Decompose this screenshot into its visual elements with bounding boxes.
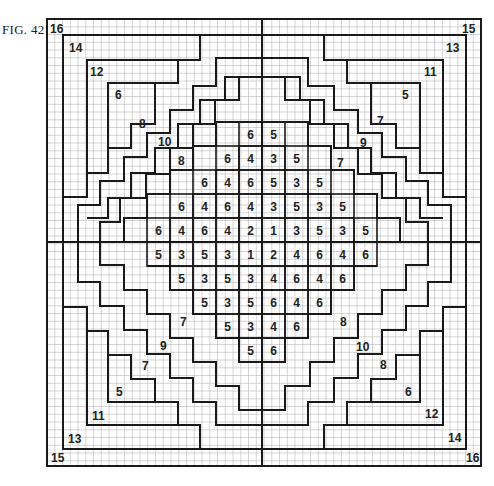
block-number: 1 — [270, 224, 277, 238]
block-number: 6 — [201, 224, 208, 238]
block-number: 4 — [224, 224, 231, 238]
region-label: 6 — [115, 88, 122, 102]
block-number: 1 — [247, 248, 254, 262]
region-label: 12 — [425, 407, 439, 421]
block-number: 6 — [155, 224, 162, 238]
region-label: 10 — [158, 135, 172, 149]
block-number: 3 — [316, 200, 323, 214]
region-label: 14 — [448, 431, 462, 445]
block-number: 5 — [270, 128, 277, 142]
block-number: 3 — [247, 320, 254, 334]
block-number: 3 — [293, 224, 300, 238]
block-number: 5 — [224, 320, 231, 334]
block-number: 3 — [224, 248, 231, 262]
block-number: 5 — [293, 200, 300, 214]
region-label: 7 — [377, 114, 384, 128]
block-number: 3 — [270, 200, 277, 214]
block-number: 5 — [339, 200, 346, 214]
region-label: 11 — [424, 65, 437, 79]
region-label: 8 — [178, 154, 185, 168]
region-label: 14 — [69, 41, 83, 55]
region-label: 9 — [360, 136, 367, 150]
block-number: 5 — [270, 176, 277, 190]
block-number: 4 — [339, 248, 346, 262]
block-number: 6 — [293, 320, 300, 334]
block-number: 3 — [270, 152, 277, 166]
block-number: 6 — [224, 200, 231, 214]
block-number: 3 — [293, 176, 300, 190]
block-number: 4 — [270, 272, 277, 286]
region-label: 13 — [446, 41, 460, 55]
region-label: 5 — [116, 385, 123, 399]
block-number: 6 — [316, 248, 323, 262]
boundary-br-8 — [262, 242, 451, 425]
block-number: 5 — [362, 224, 369, 238]
block-number: 5 — [247, 344, 254, 358]
region-label: 7 — [337, 156, 344, 170]
block-number: 3 — [247, 272, 254, 286]
region-label: 11 — [92, 409, 105, 423]
stair-grid-diagram: 6564356465356464353564642135355353124646… — [0, 0, 494, 486]
block-number: 6 — [316, 296, 323, 310]
block-number: 6 — [362, 248, 369, 262]
block-number: 5 — [316, 224, 323, 238]
region-label: 13 — [68, 432, 82, 446]
block-number: 3 — [339, 224, 346, 238]
block-number: 6 — [224, 152, 231, 166]
region-label: 12 — [90, 65, 104, 79]
block-number: 2 — [247, 224, 254, 238]
block-number: 4 — [293, 296, 300, 310]
block-number: 5 — [224, 272, 231, 286]
region-label: 6 — [405, 385, 412, 399]
block-number: 4 — [178, 224, 185, 238]
region-label: 15 — [51, 451, 65, 465]
block-number: 6 — [270, 296, 277, 310]
block-number: 4 — [247, 200, 254, 214]
block-number: 6 — [201, 176, 208, 190]
block-number: 4 — [293, 248, 300, 262]
block-number: 5 — [178, 272, 185, 286]
block-number: 2 — [270, 248, 277, 262]
block-number: 6 — [178, 200, 185, 214]
region-label: 7 — [180, 315, 187, 329]
region-label: 8 — [139, 117, 146, 131]
block-number: 5 — [201, 248, 208, 262]
region-label: 7 — [142, 359, 149, 373]
region-label: 5 — [402, 88, 409, 102]
block-number: 4 — [270, 320, 277, 334]
block-number: 5 — [155, 248, 162, 262]
block-number: 4 — [224, 176, 231, 190]
block-number: 4 — [316, 272, 323, 286]
block-number: 5 — [293, 152, 300, 166]
block-number: 6 — [247, 128, 254, 142]
block-number: 4 — [201, 200, 208, 214]
region-label: 16 — [50, 22, 64, 36]
block-number: 5 — [247, 296, 254, 310]
region-label: 8 — [380, 358, 387, 372]
block-number: 6 — [293, 272, 300, 286]
region-label: 8 — [340, 315, 347, 329]
block-number: 3 — [201, 272, 208, 286]
block-number: 5 — [201, 296, 208, 310]
region-label: 10 — [356, 340, 370, 354]
block-number: 5 — [316, 176, 323, 190]
block-number: 6 — [270, 344, 277, 358]
region-label: 15 — [462, 22, 476, 36]
boundary-tr-inner — [262, 58, 451, 242]
region-label: 16 — [466, 451, 480, 465]
block-number: 6 — [339, 272, 346, 286]
block-number: 3 — [224, 296, 231, 310]
block-number: 4 — [247, 152, 254, 166]
block-number: 6 — [247, 176, 254, 190]
region-label: 9 — [160, 339, 167, 353]
block-number: 3 — [178, 248, 185, 262]
